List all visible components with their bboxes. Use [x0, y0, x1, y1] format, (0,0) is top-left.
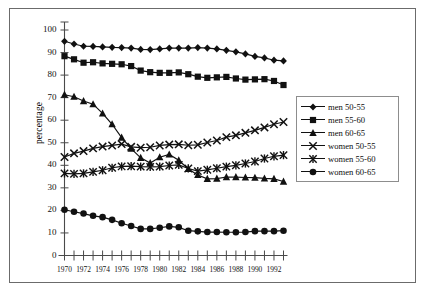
series-line	[65, 95, 284, 182]
legend-item-label: women 50-55	[326, 141, 376, 151]
legend-item[interactable]: men 50-55	[300, 100, 396, 113]
data-point-diamond	[310, 103, 317, 110]
legend-item-label: men 50-55	[326, 102, 365, 112]
data-point-square	[109, 61, 115, 67]
data-point-circle	[109, 217, 116, 224]
data-point-triangle	[166, 150, 173, 157]
data-point-diamond	[261, 54, 268, 61]
series-women-60-65	[61, 206, 287, 235]
data-point-circle	[252, 228, 259, 235]
data-point-triangle	[61, 91, 68, 98]
data-point-diamond	[156, 45, 163, 52]
legend-item[interactable]: women 50-55	[300, 139, 396, 152]
legend-item-label: men 55-60	[326, 115, 365, 125]
data-point-square	[166, 70, 172, 76]
data-point-circle	[80, 210, 87, 217]
data-point-square	[99, 60, 105, 66]
y-axis-tick-label: 100	[31, 25, 57, 34]
data-point-triangle	[80, 97, 87, 104]
data-point-diamond	[252, 53, 259, 60]
data-point-circle	[118, 220, 125, 227]
x-axis-tick-label: 1992	[259, 266, 289, 274]
data-point-square	[233, 75, 239, 81]
data-point-square	[242, 77, 248, 83]
y-axis-tick-label: 80	[31, 70, 57, 79]
legend-marker-cross-icon	[300, 140, 326, 152]
data-point-star	[309, 154, 316, 162]
legend-item-label: women 55-60	[326, 154, 376, 164]
data-point-diamond	[242, 50, 249, 57]
series-line	[65, 41, 284, 61]
data-point-circle	[271, 228, 278, 235]
data-point-diamond	[147, 46, 154, 53]
data-point-diamond	[213, 45, 220, 52]
legend-marker-diamond-icon	[300, 101, 326, 113]
y-axis-tick-label: 40	[31, 160, 57, 169]
y-axis-tick-label: 20	[31, 205, 57, 214]
data-point-square	[71, 56, 77, 62]
data-point-circle	[204, 229, 211, 236]
legend-item-label: women 60-65	[326, 167, 376, 177]
data-point-triangle	[309, 129, 316, 136]
legend-item[interactable]: women 60-65	[300, 165, 396, 178]
data-point-square	[271, 78, 277, 84]
data-point-square	[214, 74, 220, 80]
data-point-diamond	[271, 57, 278, 64]
data-point-square	[61, 53, 67, 59]
data-point-diamond	[204, 44, 211, 51]
data-point-circle	[99, 214, 106, 221]
data-point-circle	[166, 223, 173, 230]
legend-item[interactable]: men 60-65	[300, 126, 396, 139]
data-point-circle	[90, 213, 97, 220]
data-point-diamond	[90, 43, 97, 50]
data-point-square	[128, 63, 134, 69]
data-point-circle	[242, 229, 249, 236]
figure: percentage 0102030405060708090100 197019…	[0, 0, 427, 294]
legend-item-label: men 60-65	[326, 128, 365, 138]
data-point-square	[176, 69, 182, 75]
legend-marker-circle-icon	[300, 166, 326, 178]
series-line	[65, 122, 284, 157]
data-point-circle	[214, 229, 221, 236]
data-point-cross	[261, 124, 268, 131]
legend-marker-triangle-icon	[300, 127, 326, 139]
data-point-diamond	[71, 40, 78, 47]
data-point-circle	[261, 228, 268, 235]
legend-marker-star-icon	[300, 153, 326, 165]
data-point-square	[90, 59, 96, 65]
data-point-square	[195, 74, 201, 80]
data-point-diamond	[118, 44, 125, 51]
data-point-diamond	[128, 44, 135, 51]
chart-legend: men 50-55men 55-60men 60-65women 50-55wo…	[296, 96, 399, 182]
data-point-circle	[175, 224, 182, 231]
data-point-square	[252, 76, 258, 82]
series-women-55-60	[61, 151, 287, 178]
data-point-square	[119, 61, 125, 67]
y-axis-tick-label: 60	[31, 115, 57, 124]
data-point-diamond	[109, 44, 116, 51]
data-point-circle	[71, 208, 78, 215]
data-point-circle	[147, 226, 154, 233]
legend-item[interactable]: women 55-60	[300, 152, 396, 165]
legend-item[interactable]: men 55-60	[300, 113, 396, 126]
data-point-diamond	[80, 43, 87, 50]
data-point-circle	[280, 227, 287, 234]
series-women-50-55	[61, 118, 287, 160]
data-point-diamond	[166, 44, 173, 51]
data-point-square	[185, 71, 191, 77]
data-point-diamond	[99, 43, 106, 50]
data-point-circle	[195, 228, 202, 235]
y-axis-tick-label: 10	[31, 228, 57, 237]
data-point-circle	[128, 223, 135, 230]
data-point-diamond	[223, 47, 230, 54]
data-point-cross	[242, 129, 249, 136]
y-axis-tick-label: 50	[31, 138, 57, 147]
data-point-circle	[310, 168, 317, 175]
data-point-square	[204, 75, 210, 81]
data-point-circle	[185, 227, 192, 234]
data-point-square	[261, 76, 267, 82]
data-point-diamond	[232, 48, 239, 55]
data-point-star	[185, 164, 192, 172]
data-point-diamond	[137, 46, 144, 53]
data-point-circle	[223, 229, 230, 236]
